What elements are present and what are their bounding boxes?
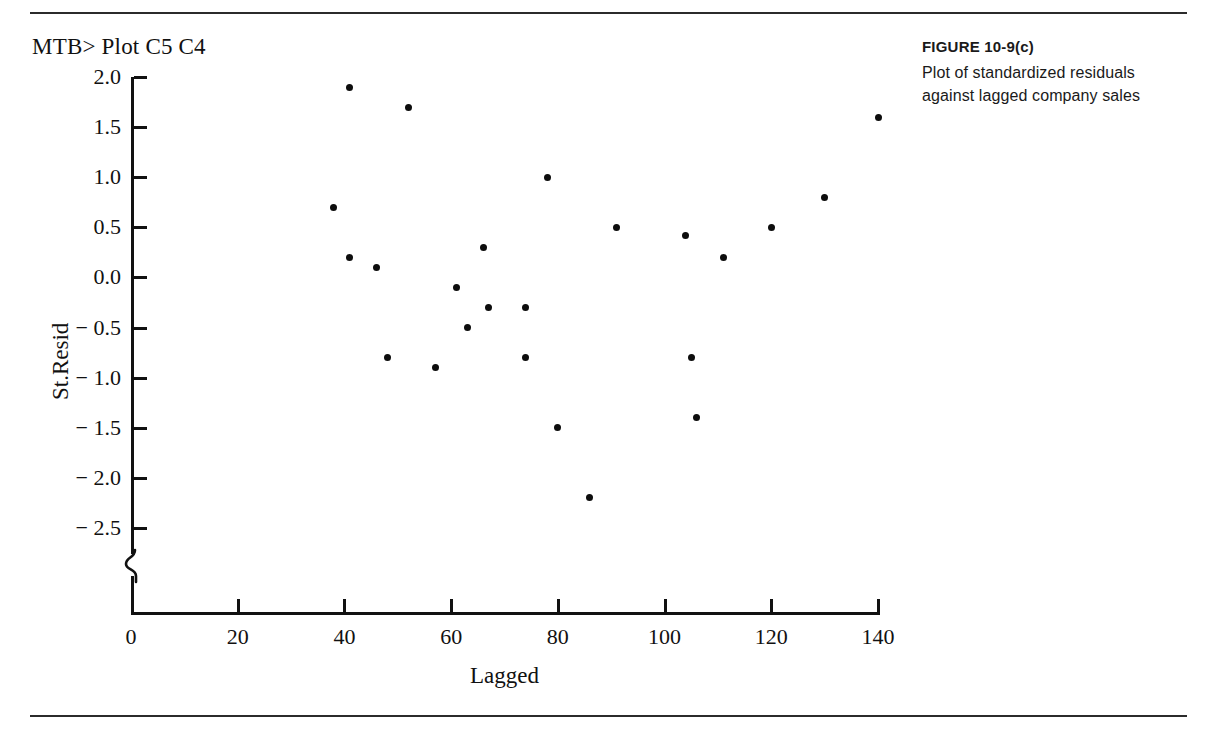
data-point <box>330 204 337 211</box>
y-axis-tick <box>134 126 147 129</box>
y-axis-tick-label: 0.0 <box>21 264 121 290</box>
data-point <box>768 224 775 231</box>
x-axis-tick-label: 140 <box>838 624 918 650</box>
y-axis-tick <box>134 377 147 380</box>
x-axis-tick <box>557 599 560 612</box>
data-point <box>693 414 700 421</box>
y-axis-break-icon <box>120 548 150 588</box>
y-axis-title: St.Resid <box>48 323 74 400</box>
x-axis-tick <box>877 599 880 612</box>
data-point <box>821 194 828 201</box>
data-point <box>373 264 380 271</box>
y-axis-tick <box>134 427 147 430</box>
y-axis-line <box>131 77 134 554</box>
data-point <box>384 354 391 361</box>
data-point <box>405 104 412 111</box>
y-axis-tick-label: 0.5 <box>21 214 121 240</box>
data-point <box>432 364 439 371</box>
x-axis-tick <box>770 599 773 612</box>
data-point <box>682 232 689 239</box>
x-axis-tick-label: 80 <box>518 624 598 650</box>
data-point <box>544 174 551 181</box>
data-point <box>485 304 492 311</box>
y-axis-tick-label: 1.0 <box>21 164 121 190</box>
scatter-plot: 2.01.51.00.50.0− 0.5− 1.0− 1.5− 2.0− 2.5… <box>0 0 1214 733</box>
y-axis-tick-label: − 2.5 <box>21 515 121 541</box>
y-axis-tick <box>134 327 147 330</box>
x-axis-tick-label: 40 <box>304 624 384 650</box>
y-axis-tick <box>134 527 147 530</box>
x-axis-tick-label: 60 <box>411 624 491 650</box>
x-axis-tick <box>664 599 667 612</box>
x-axis-title: Lagged <box>470 663 539 689</box>
x-axis-tick-label: 100 <box>625 624 705 650</box>
x-axis-line <box>131 612 880 615</box>
y-axis-tick <box>134 76 147 79</box>
data-point <box>522 354 529 361</box>
y-axis-tick <box>134 477 147 480</box>
x-axis-tick <box>343 599 346 612</box>
data-point <box>346 254 353 261</box>
x-axis-tick <box>450 599 453 612</box>
y-axis-tick-label: − 2.0 <box>21 465 121 491</box>
data-point <box>720 254 727 261</box>
y-axis-tick <box>134 226 147 229</box>
data-point <box>875 114 882 121</box>
data-point <box>346 84 353 91</box>
data-point <box>480 244 487 251</box>
x-axis-tick <box>237 599 240 612</box>
y-axis-tick-label: 2.0 <box>21 64 121 90</box>
data-point <box>586 494 593 501</box>
data-point <box>554 424 561 431</box>
data-point <box>613 224 620 231</box>
y-axis-tick <box>134 176 147 179</box>
data-point <box>522 304 529 311</box>
x-axis-tick-label: 0 <box>91 624 171 650</box>
data-point <box>688 354 695 361</box>
y-axis-tick-label: − 1.5 <box>21 415 121 441</box>
data-point <box>453 284 460 291</box>
x-axis-tick-label: 20 <box>198 624 278 650</box>
x-axis-tick-label: 120 <box>731 624 811 650</box>
y-axis-tick <box>134 276 147 279</box>
data-point <box>464 324 471 331</box>
y-axis-tick-label: 1.5 <box>21 114 121 140</box>
